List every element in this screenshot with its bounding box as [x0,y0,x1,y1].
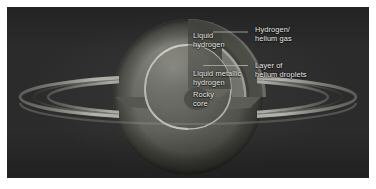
illustration-plate: Liquid hydrogen Hydrogen/ helium gas Lay… [7,7,369,178]
saturn-cutaway-illustration [7,7,369,178]
label-rocky-core: Rocky core [193,91,214,108]
label-liquid-metallic-hydrogen: Liquid metallic hydrogen [193,70,241,87]
label-helium-droplets: Layer of helium droplets [255,62,307,79]
figure-root: Liquid hydrogen Hydrogen/ helium gas Lay… [0,0,376,189]
label-hydrogen-helium-gas: Hydrogen/ helium gas [255,26,292,43]
label-liquid-hydrogen: Liquid hydrogen [193,32,225,49]
planet-sphere [107,12,277,178]
